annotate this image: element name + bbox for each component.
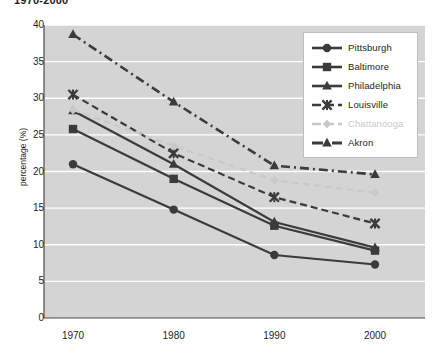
chart-legend: PittsburghBaltimorePhiladelphiaLouisvill… [303, 32, 418, 158]
legend-item-philadelphia[interactable]: Philadelphia [304, 76, 417, 95]
data-point-marker [169, 205, 177, 213]
triangle-marker [311, 79, 343, 93]
legend-label: Pittsburgh [348, 42, 392, 53]
legend-item-louisville[interactable]: Louisville [304, 95, 417, 114]
data-point-marker [322, 137, 332, 146]
circle-marker [311, 41, 343, 55]
diamond-marker [311, 117, 343, 131]
y-tick-label: 10 [18, 240, 44, 250]
y-tick-label: 5 [18, 276, 44, 286]
legend-label: Baltimore [348, 61, 389, 72]
y-axis-ticks: 0510152025303540 [14, 0, 44, 359]
legend-item-chattanooga[interactable]: Chattanooga [304, 114, 417, 133]
x-tick-label: 2000 [352, 330, 398, 341]
x-star-marker [311, 98, 343, 112]
x-tick-label: 1980 [151, 330, 197, 341]
x-tick-label: 1990 [251, 330, 297, 341]
x-tick-label: 1970 [50, 330, 96, 341]
data-point-marker [323, 43, 331, 51]
y-tick-label: 40 [18, 20, 44, 30]
legend-item-akron[interactable]: Akron [304, 133, 417, 152]
legend-item-pittsburgh[interactable]: Pittsburgh [304, 38, 417, 57]
legend-label: Chattanooga [348, 118, 404, 129]
triangle-marker [311, 136, 343, 150]
data-point-marker [323, 119, 331, 128]
square-marker [311, 60, 343, 74]
legend-label: Louisville [348, 99, 388, 110]
y-tick-label: 35 [18, 57, 44, 67]
data-point-marker [323, 62, 331, 70]
data-point-marker [69, 125, 77, 133]
y-tick-label: 20 [18, 167, 44, 177]
y-tick-label: 30 [18, 93, 44, 103]
data-point-marker [69, 160, 77, 168]
data-point-marker [270, 251, 278, 259]
legend-item-baltimore[interactable]: Baltimore [304, 57, 417, 76]
legend-label: Akron [348, 137, 373, 148]
legend-label: Philadelphia [348, 80, 401, 91]
y-tick-label: 0 [18, 313, 44, 323]
data-point-marker [371, 260, 379, 268]
data-point-marker [169, 175, 177, 183]
y-tick-label: 15 [18, 203, 44, 213]
chart-figure: 1970-2000 percentage (%) 051015202530354… [0, 0, 437, 359]
y-tick-label: 25 [18, 130, 44, 140]
